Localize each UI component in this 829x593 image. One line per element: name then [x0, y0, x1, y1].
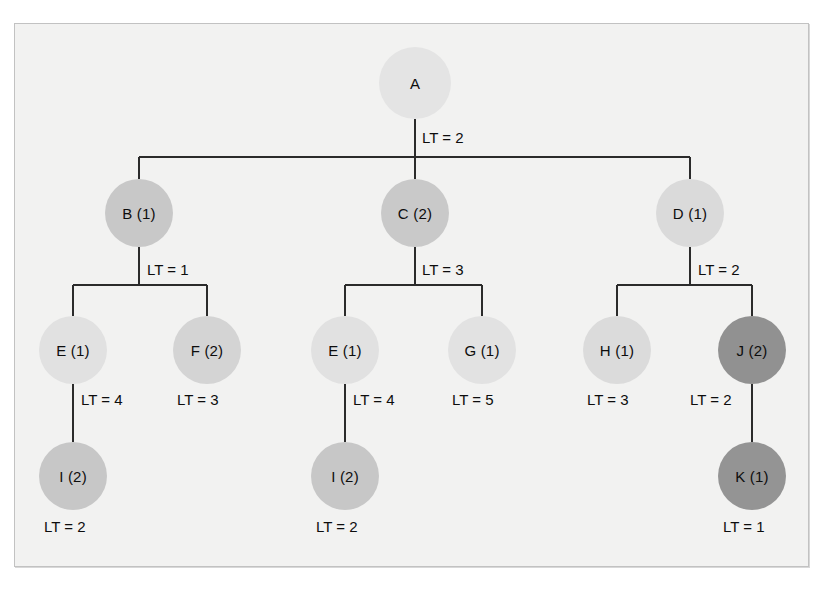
tree-node-b-label: B (1) [122, 206, 156, 221]
edge-label-d: LT = 2 [698, 262, 740, 277]
tree-node-f[interactable]: F (2) [173, 316, 241, 384]
tree-node-h-label: H (1) [600, 343, 634, 358]
edge-label-e2: LT = 4 [353, 392, 395, 407]
tree-node-j[interactable]: J (2) [718, 316, 786, 384]
tree-node-i2-label: I (2) [331, 469, 359, 484]
tree-node-g[interactable]: G (1) [448, 316, 516, 384]
tree-node-c-label: C (2) [398, 206, 432, 221]
tree-node-i1-label: I (2) [59, 469, 87, 484]
edge-label-j: LT = 2 [690, 392, 732, 407]
edge-label-b: LT = 1 [147, 262, 189, 277]
tree-node-d-label: D (1) [673, 206, 707, 221]
edge-label-e1: LT = 4 [81, 392, 123, 407]
tree-node-k[interactable]: K (1) [718, 442, 786, 510]
edge-label-c: LT = 3 [422, 262, 464, 277]
edge-label-a: LT = 2 [422, 130, 464, 145]
scan-background: A B (1) C (2) D (1) E (1) F (2) E (1) G … [0, 0, 829, 593]
tree-node-b[interactable]: B (1) [105, 179, 173, 247]
tree-node-j-label: J (2) [737, 343, 768, 358]
edge-label-k: LT = 1 [723, 519, 765, 534]
tree-node-g-label: G (1) [464, 343, 499, 358]
edge-label-i2: LT = 2 [316, 519, 358, 534]
edge-label-f: LT = 3 [177, 392, 219, 407]
edge-label-i1: LT = 2 [44, 519, 86, 534]
tree-node-a-label: A [410, 76, 420, 91]
tree-node-e2[interactable]: E (1) [311, 316, 379, 384]
tree-node-k-label: K (1) [735, 469, 769, 484]
edge-label-h: LT = 3 [587, 392, 629, 407]
tree-node-a[interactable]: A [379, 47, 451, 119]
tree-node-d[interactable]: D (1) [656, 179, 724, 247]
tree-node-c[interactable]: C (2) [381, 179, 449, 247]
tree-node-i2[interactable]: I (2) [311, 442, 379, 510]
edge-label-g: LT = 5 [452, 392, 494, 407]
tree-node-e2-label: E (1) [328, 343, 362, 358]
tree-node-f-label: F (2) [191, 343, 224, 358]
tree-node-i1[interactable]: I (2) [39, 442, 107, 510]
tree-node-e1[interactable]: E (1) [39, 316, 107, 384]
tree-node-h[interactable]: H (1) [583, 316, 651, 384]
tree-node-e1-label: E (1) [56, 343, 90, 358]
